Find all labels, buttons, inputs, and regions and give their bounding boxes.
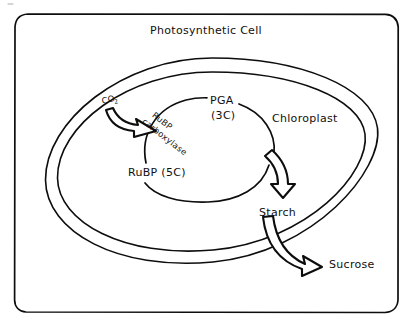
diagram-canvas: Photosynthetic Cell Chloroplast CO 2 RuB… bbox=[0, 0, 413, 330]
co2-subscript: 2 bbox=[113, 97, 119, 105]
cell-title: Photosynthetic Cell bbox=[150, 24, 262, 37]
co2-label-group: CO 2 bbox=[101, 92, 120, 108]
pga-label-line2: (3C) bbox=[211, 109, 235, 122]
pga-label-line1: PGA bbox=[210, 94, 234, 107]
calvin-cycle-arc-upper-right bbox=[239, 104, 274, 153]
chloroplast-label: Chloroplast bbox=[272, 112, 338, 125]
sucrose-label: Sucrose bbox=[329, 258, 375, 271]
chloroplast-outer-membrane bbox=[45, 58, 377, 263]
starch-arrow bbox=[265, 150, 295, 198]
rubp-label: RuBP (5C) bbox=[128, 166, 186, 179]
starch-label: Starch bbox=[259, 206, 296, 219]
